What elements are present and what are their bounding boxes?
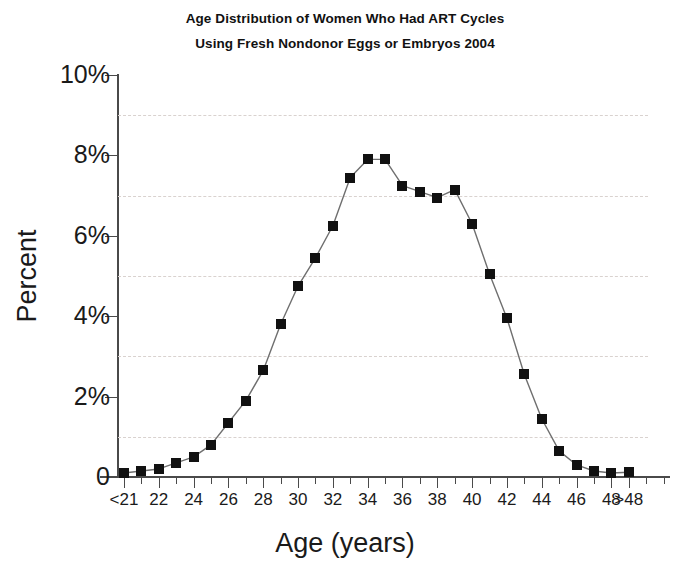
data-point-marker	[519, 369, 529, 379]
x-axis-tick-label: 38	[428, 491, 447, 508]
data-point-marker	[467, 219, 477, 229]
x-axis-tick-label: 24	[184, 491, 203, 508]
x-axis-tick-major	[611, 477, 612, 488]
data-point-marker	[276, 319, 286, 329]
x-axis-tick-minor	[350, 477, 351, 484]
chart-title: Age Distribution of Women Who Had ART Cy…	[0, 6, 690, 56]
x-axis-tick-label: 46	[567, 491, 586, 508]
x-axis-tick-minor	[594, 477, 595, 484]
y-axis-tick-label: 4%	[74, 303, 110, 328]
data-point-marker	[537, 414, 547, 424]
y-axis-tick-label: 10%	[60, 62, 110, 87]
data-point-marker	[432, 193, 442, 203]
data-point-marker	[328, 221, 338, 231]
data-point-marker	[606, 468, 616, 478]
x-axis-tick-label: 44	[532, 491, 551, 508]
y-axis-tick-label: 6%	[74, 223, 110, 248]
data-point-marker	[241, 396, 251, 406]
y-axis-tick-label: 8%	[74, 142, 110, 167]
x-axis-tick-major	[472, 477, 473, 488]
x-axis-tick-minor	[664, 477, 665, 484]
x-axis-tick-major	[298, 477, 299, 488]
x-axis-tick-label: 34	[358, 491, 377, 508]
x-axis-tick-major	[194, 477, 195, 488]
x-axis-tick-major	[402, 477, 403, 488]
x-axis-tick-minor	[420, 477, 421, 484]
x-axis-tick-minor	[646, 477, 647, 484]
data-point-marker	[502, 313, 512, 323]
x-axis-tick-major	[333, 477, 334, 488]
x-axis-tick-minor	[315, 477, 316, 484]
data-point-marker	[572, 460, 582, 470]
data-point-marker	[154, 464, 164, 474]
data-point-marker	[310, 253, 320, 263]
data-point-marker	[415, 187, 425, 197]
data-point-marker	[485, 269, 495, 279]
x-axis-tick-label: 22	[149, 491, 168, 508]
data-point-marker	[171, 458, 181, 468]
x-axis-tick-label: 32	[323, 491, 342, 508]
x-axis-tick-minor	[246, 477, 247, 484]
x-axis-tick-label: 42	[497, 491, 516, 508]
chart-title-line-1: Age Distribution of Women Who Had ART Cy…	[0, 6, 690, 31]
data-point-marker	[380, 154, 390, 164]
data-point-marker	[119, 468, 129, 478]
x-axis-tick-label: <21	[110, 491, 139, 508]
series-line	[118, 75, 648, 477]
x-axis-tick-minor	[490, 477, 491, 484]
x-axis-tick-major	[507, 477, 508, 488]
x-axis-tick-label: 40	[463, 491, 482, 508]
x-axis-tick-major	[542, 477, 543, 488]
plot-area: 02%4%6%8%10% <21222426283032343638404244…	[118, 75, 648, 477]
x-axis-tick-label: 26	[219, 491, 238, 508]
x-axis-title: Age (years)	[0, 528, 690, 559]
chart-title-line-2: Using Fresh Nondonor Eggs or Embryos 200…	[0, 31, 690, 56]
data-point-marker	[624, 467, 634, 477]
x-axis-tick-label: 30	[289, 491, 308, 508]
data-point-marker	[397, 181, 407, 191]
data-point-marker	[293, 281, 303, 291]
x-axis-tick-minor	[559, 477, 560, 484]
data-point-marker	[223, 418, 233, 428]
data-point-marker	[189, 452, 199, 462]
x-axis-tick-minor	[141, 477, 142, 484]
x-axis-tick-minor	[385, 477, 386, 484]
data-point-marker	[589, 466, 599, 476]
data-point-marker	[258, 365, 268, 375]
data-point-marker	[206, 440, 216, 450]
x-axis-tick-minor	[281, 477, 282, 484]
x-axis-tick-major	[159, 477, 160, 488]
y-axis-title: Percent	[10, 75, 44, 477]
x-axis-tick-major	[228, 477, 229, 488]
x-axis-tick-major	[577, 477, 578, 488]
x-axis-tick-major	[263, 477, 264, 488]
x-axis-tick-major	[124, 477, 125, 488]
x-axis-tick-major	[629, 477, 630, 488]
y-axis-tick-label: 0	[96, 464, 110, 489]
x-axis-tick-minor	[455, 477, 456, 484]
y-axis-tick-label: 2%	[74, 384, 110, 409]
chart-figure: Age Distribution of Women Who Had ART Cy…	[0, 0, 690, 584]
x-axis-tick-minor	[524, 477, 525, 484]
x-axis-tick-major	[368, 477, 369, 488]
data-point-marker	[363, 154, 373, 164]
data-point-marker	[345, 173, 355, 183]
x-axis-tick-major	[437, 477, 438, 488]
x-axis-tick-label: 28	[254, 491, 273, 508]
data-point-marker	[554, 446, 564, 456]
x-axis-tick-minor	[211, 477, 212, 484]
data-point-marker	[136, 466, 146, 476]
x-axis-tick-minor	[176, 477, 177, 484]
x-axis-tick-label: >48	[614, 491, 643, 508]
data-point-marker	[450, 185, 460, 195]
x-axis-tick-label: 36	[393, 491, 412, 508]
